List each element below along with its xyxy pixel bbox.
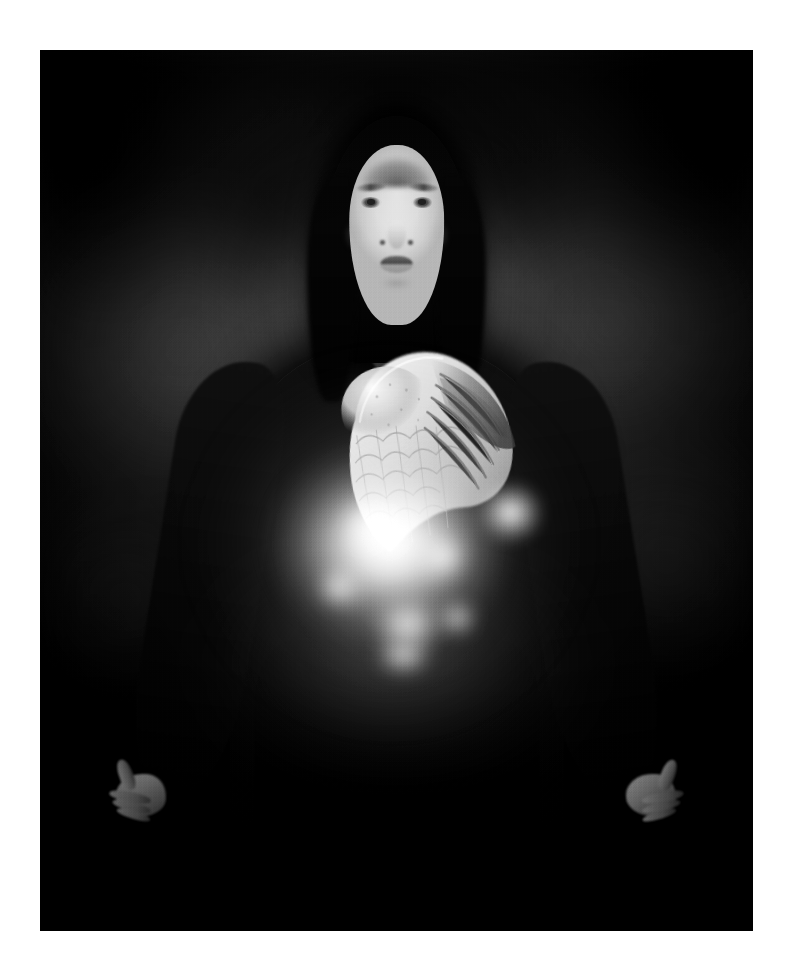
print-canvas: Untitled photographic print hooded woman… xyxy=(0,0,791,977)
glow-blob xyxy=(432,596,482,640)
nose xyxy=(387,221,406,249)
cheek-right xyxy=(426,217,450,254)
photograph: Untitled photographic print hooded woman… xyxy=(40,50,753,931)
glow-highlight-chest xyxy=(468,473,554,552)
hand-right xyxy=(618,750,686,834)
glow-blob xyxy=(332,491,410,561)
chin-shadow xyxy=(375,279,418,293)
thumb-right xyxy=(656,757,680,792)
nostril-right xyxy=(408,240,413,244)
hand-left xyxy=(108,750,176,834)
figure xyxy=(40,50,753,931)
glow-blob xyxy=(368,631,439,679)
glow-blob xyxy=(411,526,475,588)
cheek-left xyxy=(342,217,366,254)
nostril-left xyxy=(380,240,385,244)
glow-blob xyxy=(311,561,368,614)
lips xyxy=(380,256,413,273)
